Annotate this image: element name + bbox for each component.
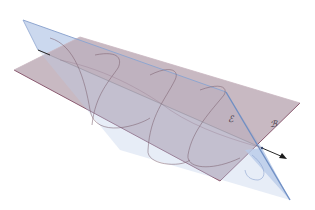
two-planes-diagram: ℰ ℬ [0, 0, 315, 210]
axis-arrow-icon [279, 153, 287, 159]
intersection-point [261, 147, 263, 149]
plane-b-label: ℬ [270, 119, 278, 129]
